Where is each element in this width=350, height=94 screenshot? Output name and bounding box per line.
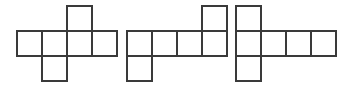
net-3 [236, 6, 336, 81]
net-1-square-5 [42, 56, 67, 81]
net-3-square-5 [311, 31, 336, 56]
net-2-square-4 [202, 6, 227, 31]
net-1-square-2 [67, 31, 92, 56]
net-1-square-0 [17, 31, 42, 56]
net-2-square-5 [127, 56, 152, 81]
net-3-square-0 [236, 6, 261, 31]
net-1-square-1 [42, 31, 67, 56]
net-1-square-3 [92, 31, 117, 56]
net-2-square-3 [202, 31, 227, 56]
net-3-square-1 [236, 31, 261, 56]
figure-canvas [0, 0, 350, 94]
net-2 [127, 6, 227, 81]
net-2-square-1 [152, 31, 177, 56]
net-3-square-4 [286, 31, 311, 56]
net-1-square-4 [67, 6, 92, 31]
net-2-square-0 [127, 31, 152, 56]
net-1 [17, 6, 117, 81]
cube-nets-diagram [0, 0, 350, 94]
net-3-square-2 [236, 56, 261, 81]
net-3-square-3 [261, 31, 286, 56]
net-2-square-2 [177, 31, 202, 56]
